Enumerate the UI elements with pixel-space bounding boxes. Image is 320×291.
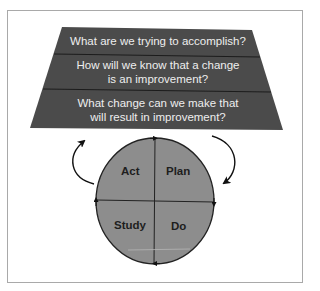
quadrant-do: Do [171, 220, 186, 232]
question-aim: What are we trying to accomplish? [60, 34, 256, 48]
question-measure-line2: is an improvement? [50, 72, 266, 86]
question-change-line2: will result in improvement? [40, 110, 276, 124]
pdsa-cycle [96, 138, 214, 264]
quadrant-act: Act [121, 165, 140, 177]
question-aim-text: What are we trying to accomplish? [70, 35, 246, 47]
question-measure: How will we know that a change is an imp… [50, 58, 266, 86]
question-change: What change can we make that will result… [40, 96, 276, 124]
left-curve-arrow-icon [73, 141, 94, 184]
quadrant-plan: Plan [166, 165, 190, 177]
question-measure-line1: How will we know that a change [50, 58, 266, 72]
question-change-line1: What change can we make that [40, 96, 276, 110]
quadrant-study: Study [114, 219, 146, 231]
right-curve-arrow-icon [212, 136, 235, 183]
